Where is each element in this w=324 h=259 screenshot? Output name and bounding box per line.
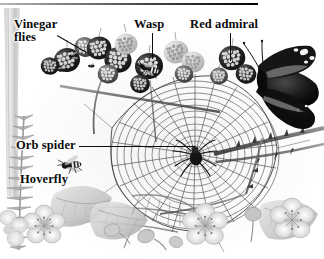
leader-red-admiral — [230, 33, 231, 61]
label-hoverfly: Hoverfly — [20, 173, 68, 186]
label-orb-spider: Orb spider — [16, 139, 76, 152]
label-vinegar-flies: Vinegar flies — [14, 18, 76, 44]
label-vinegar-flies-line2: flies — [14, 30, 36, 44]
illustration-figure: Vinegar flies Wasp Red admiral Orb spide… — [0, 0, 324, 259]
label-vinegar-flies-line1: Vinegar — [14, 17, 57, 31]
label-wasp: Wasp — [134, 18, 164, 31]
illustration-canvas — [0, 8, 324, 259]
label-red-admiral: Red admiral — [190, 18, 258, 31]
leader-orb-spider — [79, 146, 195, 147]
leader-wasp — [152, 33, 153, 59]
top-rule — [0, 3, 258, 5]
